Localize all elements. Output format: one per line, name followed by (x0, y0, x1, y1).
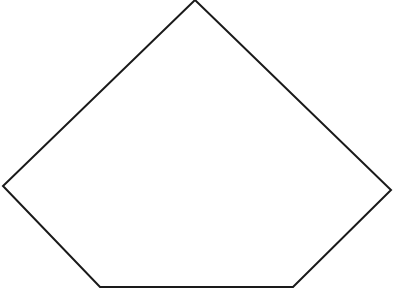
clipped-caption (0, 293, 394, 298)
pentagon-outline (3, 0, 391, 287)
caption-text (0, 293, 394, 298)
diagram-canvas (0, 0, 394, 298)
pentagon-figure (0, 0, 394, 298)
